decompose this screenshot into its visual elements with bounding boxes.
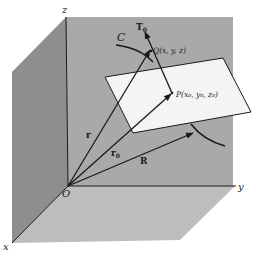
- x-axis-label: x: [3, 241, 9, 252]
- vector-r-label: r: [86, 130, 91, 140]
- vector-r0-subscript: 0: [116, 152, 120, 159]
- origin-label: O: [62, 188, 70, 199]
- point-P: [171, 92, 174, 95]
- curve-c-label: C: [117, 31, 126, 44]
- point-q-label: Q(x, y, z): [153, 46, 186, 55]
- tangent-plane-diagram: z y x O C Q(x, y, z) P(x₀, y₀, z₀) r r0 …: [0, 0, 255, 253]
- point-p-label: P(x₀, y₀, z₀): [175, 90, 218, 99]
- vector-R-label: R: [140, 156, 148, 166]
- z-axis-label: z: [61, 4, 68, 15]
- tangent-T0-subscript: 0: [143, 26, 147, 33]
- point-Q: [150, 50, 153, 53]
- y-axis-label: y: [237, 181, 244, 192]
